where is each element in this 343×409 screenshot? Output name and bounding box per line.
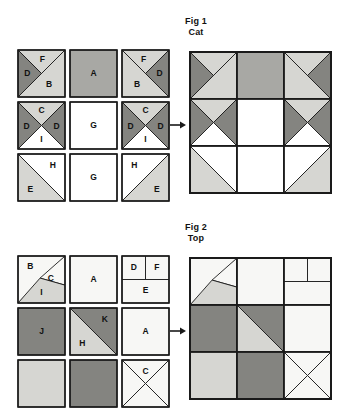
patch-label: I xyxy=(40,134,42,144)
cell-r1c2 xyxy=(237,258,284,305)
patch-label: D xyxy=(127,121,133,131)
patch-full xyxy=(237,146,284,193)
figure-title-line2: Cat xyxy=(136,27,256,38)
patch-label: C xyxy=(38,105,44,115)
cell-r3c2 xyxy=(237,352,284,399)
patch-label: H xyxy=(79,338,85,348)
patch-label: E xyxy=(27,184,33,194)
patch-label: K xyxy=(102,314,109,324)
patch-label: G xyxy=(90,172,97,182)
cell-r2c3 xyxy=(284,99,331,146)
patch-full xyxy=(18,360,65,407)
patch-full xyxy=(190,305,237,352)
figure-title-line2: Top xyxy=(136,233,256,244)
patch-label: D xyxy=(23,121,29,131)
unit-r3c1: HE xyxy=(18,154,65,201)
unit-grid: BCIADFEJKHAC xyxy=(16,254,171,409)
patch-label: A xyxy=(90,274,96,284)
unit-r1c3: DFE xyxy=(122,256,169,303)
arrow-icon xyxy=(170,326,186,336)
figure-title: Fig 1Cat xyxy=(136,16,256,38)
cell-r3c1 xyxy=(190,146,237,193)
patch-label: B xyxy=(46,79,52,89)
patch-label: H xyxy=(50,160,56,170)
patch-label: C xyxy=(48,273,54,283)
cell-r1c3 xyxy=(284,52,331,99)
unit-r1c3: FDB xyxy=(122,50,169,97)
unit-r3c2 xyxy=(70,360,117,407)
patch-full xyxy=(190,352,237,399)
unit-r1c2: A xyxy=(70,50,117,97)
patch-label: D xyxy=(53,121,59,131)
cell-r2c1 xyxy=(190,305,237,352)
figure-title-line1: Fig 1 xyxy=(185,16,207,26)
patch-full xyxy=(70,360,117,407)
figure-title-line1: Fig 2 xyxy=(185,222,207,232)
patch-label: B xyxy=(27,261,33,271)
assembled-block xyxy=(188,50,333,195)
unit-r3c3: C xyxy=(122,360,169,407)
unit-r1c1: BCI xyxy=(18,256,65,303)
patch-label: A xyxy=(90,68,96,78)
arrow-icon xyxy=(170,120,186,130)
figure-title: Fig 2Top xyxy=(136,222,256,244)
patch-label: D xyxy=(157,121,163,131)
patch-full xyxy=(237,352,284,399)
patch-label: G xyxy=(90,120,97,130)
cell-r3c1 xyxy=(190,352,237,399)
patch-label: D xyxy=(157,68,163,78)
patch-label: D xyxy=(131,262,137,272)
cell-r2c1 xyxy=(190,99,237,146)
patch-label: J xyxy=(39,326,44,336)
unit-r1c1: FDB xyxy=(18,50,65,97)
unit-r1c2: A xyxy=(70,256,117,303)
patch-label: F xyxy=(40,54,45,64)
patch-label: I xyxy=(144,134,146,144)
unit-r3c2: G xyxy=(70,154,117,201)
unit-r2c2: G xyxy=(70,102,117,149)
unit-r2c1: J xyxy=(18,308,65,355)
unit-r3c1 xyxy=(18,360,65,407)
unit-grid: FDBAFDBCDDIGCDDIHEGHE xyxy=(16,48,171,203)
patch-full xyxy=(237,99,284,146)
patch-label: C xyxy=(142,366,148,376)
patch-label: I xyxy=(40,287,42,297)
unit-r2c3: CDDI xyxy=(122,102,169,149)
patch-quad-topleft xyxy=(284,258,308,282)
unit-r2c1: CDDI xyxy=(18,102,65,149)
cell-r3c2 xyxy=(237,146,284,193)
cell-r1c3 xyxy=(284,258,331,305)
patch-label: A xyxy=(142,326,148,336)
patch-full xyxy=(237,52,284,99)
patch-label: B xyxy=(134,79,140,89)
patch-full xyxy=(237,258,284,305)
cell-r2c3 xyxy=(284,305,331,352)
unit-r3c3: HE xyxy=(122,154,169,201)
patch-quad-topright xyxy=(308,258,332,282)
cell-r3c3 xyxy=(284,146,331,193)
patch-label: E xyxy=(143,285,149,295)
cell-r1c1 xyxy=(190,52,237,99)
assembled-block xyxy=(188,256,333,401)
unit-r2c2: KH xyxy=(70,308,117,355)
cell-r2c2 xyxy=(237,305,284,352)
patch-label: F xyxy=(141,54,146,64)
patch-half-bottom xyxy=(284,282,331,306)
unit-r2c3: A xyxy=(122,308,169,355)
cell-r1c1 xyxy=(190,258,237,305)
patch-label: D xyxy=(24,68,30,78)
cell-r3c3 xyxy=(284,352,331,399)
patch-label: C xyxy=(142,105,148,115)
patch-label: F xyxy=(154,262,159,272)
patch-label: E xyxy=(154,184,160,194)
cell-r1c2 xyxy=(237,52,284,99)
patch-label: H xyxy=(131,160,137,170)
cell-r2c2 xyxy=(237,99,284,146)
patch-full xyxy=(284,305,331,352)
